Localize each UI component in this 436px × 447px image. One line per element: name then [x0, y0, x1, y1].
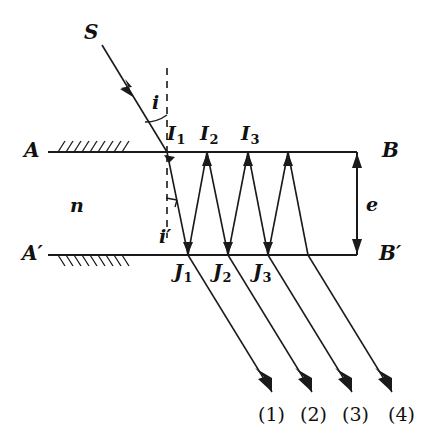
- bottom-point-index-J3: 3: [263, 270, 272, 285]
- surface-label-B-prime: B′: [379, 243, 401, 263]
- internal-arrowhead-J3: [263, 242, 273, 254]
- internal-ray-J2-I3: [228, 152, 248, 255]
- top-point-label-I3: I3: [241, 124, 259, 147]
- bottom-point-letter-J3: J: [253, 260, 262, 282]
- emergent-ray-label-4: (4): [388, 405, 415, 424]
- top-point-index-I2: 2: [209, 132, 218, 147]
- incidence-angle-label: i: [152, 93, 159, 112]
- bottom-point-label-J3: J3: [253, 262, 271, 285]
- surface-label-A-prime: A′: [22, 243, 43, 263]
- top-point-label-I2: I2: [200, 124, 218, 147]
- internal-arrowhead-J2: [223, 242, 233, 254]
- thickness-arrowhead-down: [352, 239, 362, 254]
- internal-ray-J1-I2: [188, 152, 207, 255]
- top-surface-hatching: [58, 141, 129, 152]
- thickness-arrowhead-up: [352, 153, 362, 168]
- refraction-angle-label: i′: [159, 227, 171, 246]
- optics-diagram-canvas: [0, 0, 436, 447]
- top-point-letter-I1: I: [167, 122, 176, 144]
- top-point-letter-I2: I: [200, 122, 209, 144]
- thickness-label: e: [366, 195, 378, 214]
- top-point-index-I3: 3: [250, 132, 259, 147]
- refractive-index-label: n: [70, 196, 84, 215]
- top-point-index-I1: 1: [176, 132, 185, 147]
- internal-arrowhead-J1: [183, 242, 193, 254]
- internal-ray-I4-J4: [288, 152, 308, 255]
- internal-ray-I2-J2: [207, 152, 228, 255]
- source-ray-label: S: [84, 22, 98, 42]
- refracted-ray-arrowhead: [164, 155, 175, 163]
- emergent-arrowheads: [255, 368, 392, 392]
- bottom-point-label-J1: J1: [174, 262, 192, 285]
- bottom-point-label-J2: J2: [213, 262, 231, 285]
- internal-ray-I3-J3: [248, 152, 268, 255]
- emergent-ray-label-1: (1): [258, 405, 285, 424]
- surface-label-B: B: [382, 140, 399, 160]
- top-point-letter-I3: I: [241, 122, 250, 144]
- internal-arrowhead-I4: [283, 153, 293, 166]
- internal-arrowhead-I3: [243, 153, 253, 166]
- top-point-label-I1: I1: [167, 124, 185, 147]
- ray-diagram-figure: S i i′ n e A B A′ B′ I1 I2 I3 J1 J2 J3 (…: [0, 0, 436, 447]
- bottom-point-letter-J1: J: [174, 260, 183, 282]
- emergent-ray-label-2: (2): [300, 405, 327, 424]
- bottom-point-index-J2: 2: [223, 270, 232, 285]
- surface-label-A: A: [24, 140, 40, 160]
- bottom-point-index-J1: 1: [184, 270, 193, 285]
- bottom-surface-hatching: [58, 255, 129, 266]
- internal-arrowhead-I2: [202, 153, 212, 166]
- bottom-point-letter-J2: J: [213, 260, 222, 282]
- emergent-ray-label-3: (3): [342, 405, 369, 424]
- internal-ray-J3-I4: [268, 152, 288, 255]
